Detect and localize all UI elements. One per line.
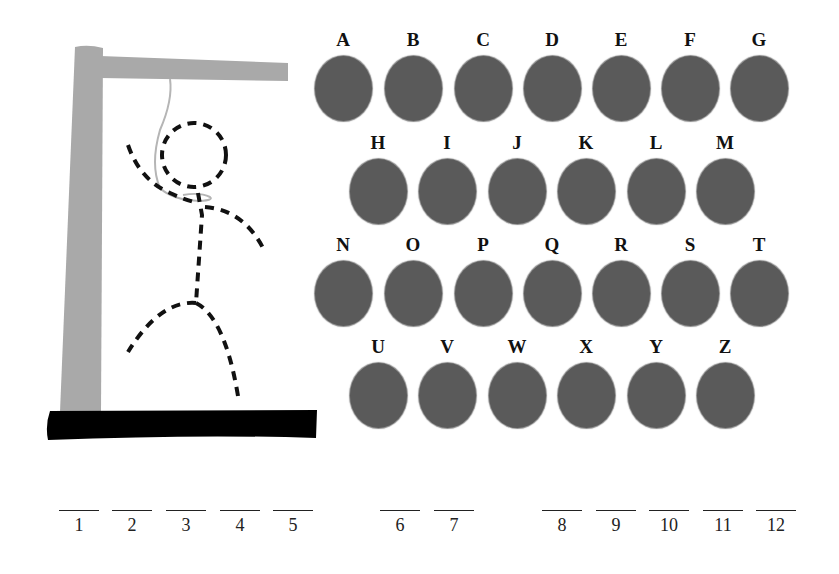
letter-button-m[interactable]: M	[695, 131, 755, 224]
gallows-post	[60, 46, 103, 412]
letter-button-a[interactable]: A	[313, 28, 373, 121]
letter-disc[interactable]	[524, 56, 581, 121]
blank-line	[434, 510, 474, 511]
letter-label: D	[522, 28, 582, 52]
letter-blank-5: 5	[273, 510, 313, 536]
blank-number: 12	[756, 515, 796, 536]
letter-disc[interactable]	[628, 363, 685, 428]
letter-label: I	[417, 131, 477, 155]
letter-button-q[interactable]: Q	[522, 233, 582, 326]
letter-label: O	[383, 233, 443, 257]
letter-label: Z	[695, 335, 755, 359]
letter-disc[interactable]	[697, 363, 754, 428]
letter-button-b[interactable]: B	[383, 28, 443, 121]
letter-button-l[interactable]: L	[626, 131, 686, 224]
letter-button-d[interactable]: D	[522, 28, 582, 121]
letter-button-j[interactable]: J	[487, 131, 547, 224]
letter-button-k[interactable]: K	[556, 131, 616, 224]
letter-button-p[interactable]: P	[453, 233, 513, 326]
blank-number: 7	[434, 515, 474, 536]
letter-label: X	[556, 335, 616, 359]
letter-disc[interactable]	[455, 261, 512, 326]
blank-line	[166, 510, 206, 511]
letter-disc[interactable]	[697, 159, 754, 224]
letter-disc[interactable]	[489, 159, 546, 224]
letter-button-o[interactable]: O	[383, 233, 443, 326]
letter-label: L	[626, 131, 686, 155]
letter-disc[interactable]	[731, 261, 788, 326]
letter-button-w[interactable]: W	[487, 335, 547, 428]
blank-number: 1	[59, 515, 99, 536]
letter-button-t[interactable]: T	[729, 233, 789, 326]
gallows-beam	[100, 56, 288, 81]
letter-disc[interactable]	[350, 159, 407, 224]
letter-disc[interactable]	[731, 56, 788, 121]
figure-right-arm	[205, 207, 265, 252]
letter-blank-3: 3	[166, 510, 206, 536]
letter-button-s[interactable]: S	[660, 233, 720, 326]
figure-left-leg	[128, 303, 196, 352]
figure-body	[196, 193, 202, 303]
letter-disc[interactable]	[315, 261, 372, 326]
letter-button-x[interactable]: X	[556, 335, 616, 428]
letter-label: B	[383, 28, 443, 52]
letter-button-z[interactable]: Z	[695, 335, 755, 428]
letter-button-f[interactable]: F	[660, 28, 720, 121]
figure-head	[162, 123, 226, 187]
letter-blank-1: 1	[59, 510, 99, 536]
blank-number: 4	[220, 515, 260, 536]
blank-line	[220, 510, 260, 511]
blank-line	[59, 510, 99, 511]
blank-number: 5	[273, 515, 313, 536]
letter-disc[interactable]	[419, 159, 476, 224]
letter-button-c[interactable]: C	[453, 28, 513, 121]
blank-line	[542, 510, 582, 511]
blank-line	[756, 510, 796, 511]
blank-line	[596, 510, 636, 511]
letter-disc[interactable]	[385, 261, 442, 326]
letter-button-g[interactable]: G	[729, 28, 789, 121]
letter-disc[interactable]	[524, 261, 581, 326]
letter-blank-4: 4	[220, 510, 260, 536]
letter-disc[interactable]	[593, 56, 650, 121]
letter-label: Q	[522, 233, 582, 257]
letter-button-r[interactable]: R	[591, 233, 651, 326]
letter-disc[interactable]	[593, 261, 650, 326]
letter-label: M	[695, 131, 755, 155]
letter-blank-10: 10	[649, 510, 689, 536]
letter-label: V	[417, 335, 477, 359]
letter-disc[interactable]	[455, 56, 512, 121]
letter-blank-11: 11	[703, 510, 743, 536]
letter-disc[interactable]	[419, 363, 476, 428]
letter-blank-12: 12	[756, 510, 796, 536]
letter-disc[interactable]	[662, 261, 719, 326]
letter-button-h[interactable]: H	[348, 131, 408, 224]
letter-label: F	[660, 28, 720, 52]
letter-label: G	[729, 28, 789, 52]
letter-disc[interactable]	[315, 56, 372, 121]
letter-label: U	[348, 335, 408, 359]
rope	[155, 79, 211, 201]
letter-button-e[interactable]: E	[591, 28, 651, 121]
letter-disc[interactable]	[558, 363, 615, 428]
blank-number: 2	[112, 515, 152, 536]
letter-disc[interactable]	[385, 56, 442, 121]
letter-disc[interactable]	[350, 363, 407, 428]
letter-button-v[interactable]: V	[417, 335, 477, 428]
letter-label: K	[556, 131, 616, 155]
letter-button-y[interactable]: Y	[626, 335, 686, 428]
letter-disc[interactable]	[558, 159, 615, 224]
letter-label: C	[453, 28, 513, 52]
letter-disc[interactable]	[489, 363, 546, 428]
letter-label: T	[729, 233, 789, 257]
blank-number: 9	[596, 515, 636, 536]
letter-disc[interactable]	[662, 56, 719, 121]
letter-button-n[interactable]: N	[313, 233, 373, 326]
letter-blank-7: 7	[434, 510, 474, 536]
letter-button-i[interactable]: I	[417, 131, 477, 224]
hanged-figure	[128, 123, 265, 396]
letter-blank-2: 2	[112, 510, 152, 536]
letter-blank-9: 9	[596, 510, 636, 536]
letter-button-u[interactable]: U	[348, 335, 408, 428]
letter-disc[interactable]	[628, 159, 685, 224]
